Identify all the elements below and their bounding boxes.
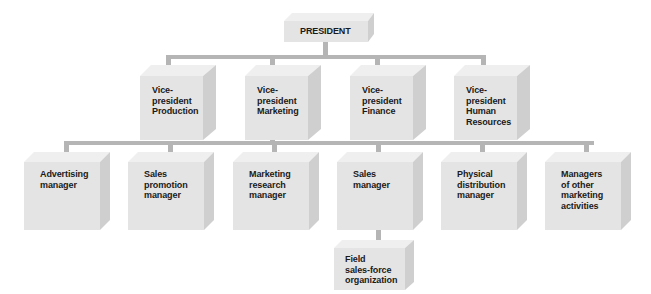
vp-finance-label: Vice- president Finance [362, 85, 402, 117]
advertising-manager-label: Advertising manager [40, 169, 88, 190]
other-marketing-managers-label: Managers of other marketing activities [561, 169, 603, 211]
vp-human-resources-box: Vice- president Human Resources [454, 65, 530, 140]
sales-promotion-manager-box: Sales promotion manager [128, 152, 214, 230]
advertising-manager-box: Advertising manager [24, 152, 110, 230]
sales-promotion-manager-label: Sales promotion manager [144, 169, 188, 201]
field-sales-force-label: Field sales-force organization [345, 254, 397, 286]
other-marketing-managers-box: Managers of other marketing activities [545, 152, 631, 230]
manager-horizontal-connector [64, 141, 594, 145]
vp-marketing-box: Vice- president Marketing [245, 65, 321, 140]
field-sales-force-box: Field sales-force organization [334, 240, 414, 290]
physical-distribution-manager-box: Physical distribution manager [441, 152, 527, 230]
sales-manager-box: Sales manager [337, 152, 423, 230]
vp-horizontal-connector [166, 55, 486, 59]
marketing-research-manager-box: Marketing research manager [233, 152, 319, 230]
vp-finance-box: Vice- president Finance [350, 65, 426, 140]
vp-marketing-label: Vice- president Marketing [257, 85, 299, 117]
vp-production-box: Vice- president Production [140, 65, 216, 140]
physical-distribution-manager-label: Physical distribution manager [457, 169, 505, 201]
marketing-research-manager-label: Marketing research manager [249, 169, 291, 201]
president-label: PRESIDENT [300, 26, 351, 37]
president-box: PRESIDENT [284, 13, 374, 42]
vp-production-label: Vice- president Production [152, 85, 199, 117]
vp-human-resources-label: Vice- president Human Resources [466, 85, 511, 127]
sales-manager-label: Sales manager [353, 169, 390, 190]
